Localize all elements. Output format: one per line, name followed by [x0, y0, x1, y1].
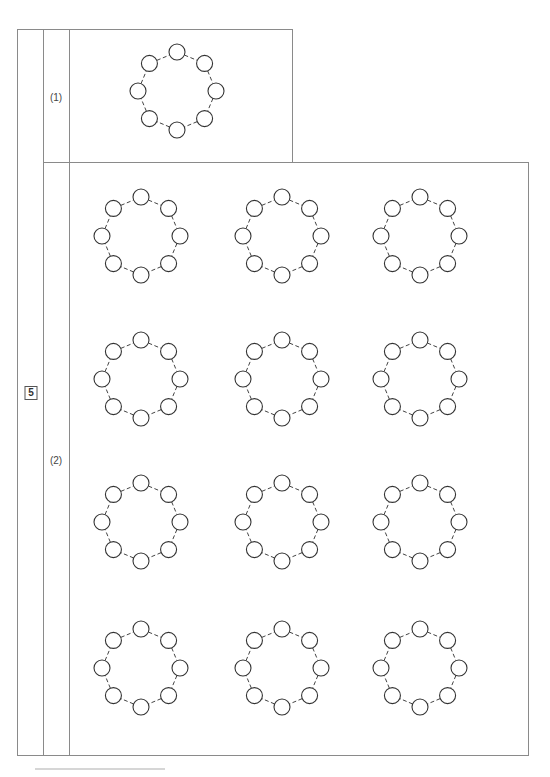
ring-node-circle[interactable] [302, 399, 318, 415]
ring-node-circle[interactable] [440, 486, 456, 502]
ring-node-circle[interactable] [105, 542, 121, 558]
ring-node-circle[interactable] [440, 200, 456, 216]
ring-node-circle[interactable] [373, 660, 389, 676]
ring-node-circle[interactable] [384, 343, 400, 359]
ring-node-circle[interactable] [313, 228, 329, 244]
ring-node-circle[interactable] [246, 632, 262, 648]
ring-node-circle[interactable] [197, 55, 213, 71]
ring-node-circle[interactable] [313, 660, 329, 676]
ring-node-circle[interactable] [235, 660, 251, 676]
ring-node-circle[interactable] [94, 514, 110, 530]
ring-node-circle[interactable] [246, 542, 262, 558]
ring-node-circle[interactable] [373, 371, 389, 387]
ring-node-circle[interactable] [105, 343, 121, 359]
ring-node-circle[interactable] [246, 343, 262, 359]
ring-node-circle[interactable] [440, 688, 456, 704]
ring-node-circle[interactable] [384, 256, 400, 272]
ring-node-circle[interactable] [133, 621, 149, 637]
ring-node-circle[interactable] [246, 486, 262, 502]
ring-node-circle[interactable] [384, 688, 400, 704]
ring-node-circle[interactable] [105, 688, 121, 704]
ring-node-circle[interactable] [133, 475, 149, 491]
ring-node-circle[interactable] [384, 200, 400, 216]
ring-node-circle[interactable] [172, 660, 188, 676]
ring-node-circle[interactable] [440, 256, 456, 272]
ring-node-circle[interactable] [412, 267, 428, 283]
ring-node-circle[interactable] [412, 189, 428, 205]
ring-node-circle[interactable] [197, 111, 213, 127]
ring-node-circle[interactable] [133, 410, 149, 426]
ring-node-circle[interactable] [412, 410, 428, 426]
ring-node-circle[interactable] [440, 542, 456, 558]
ring-node-circle[interactable] [302, 256, 318, 272]
ring-node-circle[interactable] [161, 256, 177, 272]
ring-node-circle[interactable] [412, 699, 428, 715]
ring-node-circle[interactable] [274, 621, 290, 637]
ring-node-circle[interactable] [105, 200, 121, 216]
ring-node-circle[interactable] [384, 399, 400, 415]
ring-node-circle[interactable] [302, 542, 318, 558]
ring-node-circle[interactable] [313, 514, 329, 530]
ring-node-circle[interactable] [208, 83, 224, 99]
ring-node-circle[interactable] [161, 688, 177, 704]
ring-node-circle[interactable] [274, 475, 290, 491]
ring-node-circle[interactable] [274, 332, 290, 348]
ring-node-circle[interactable] [451, 371, 467, 387]
ring-node-circle[interactable] [412, 621, 428, 637]
ring-node-circle[interactable] [302, 343, 318, 359]
ring-node-circle[interactable] [440, 399, 456, 415]
ring-node-circle[interactable] [451, 660, 467, 676]
ring-node-circle[interactable] [94, 660, 110, 676]
ring-node-circle[interactable] [412, 553, 428, 569]
ring-node-circle[interactable] [141, 55, 157, 71]
ring-node-circle[interactable] [412, 475, 428, 491]
ring-node-circle[interactable] [274, 189, 290, 205]
ring-node-circle[interactable] [274, 699, 290, 715]
ring-node-circle[interactable] [274, 553, 290, 569]
ring-node-circle[interactable] [161, 632, 177, 648]
ring-node-circle[interactable] [105, 632, 121, 648]
ring-node-circle[interactable] [172, 371, 188, 387]
ring-node-circle[interactable] [451, 514, 467, 530]
ring-node-circle[interactable] [246, 688, 262, 704]
ring-node-circle[interactable] [161, 486, 177, 502]
ring-node-circle[interactable] [235, 514, 251, 530]
ring-node-circle[interactable] [246, 256, 262, 272]
ring-node-circle[interactable] [169, 122, 185, 138]
ring-node-circle[interactable] [274, 267, 290, 283]
ring-node-circle[interactable] [235, 371, 251, 387]
ring-node-circle[interactable] [169, 44, 185, 60]
ring-node-circle[interactable] [373, 228, 389, 244]
ring-node-circle[interactable] [105, 399, 121, 415]
ring-node-circle[interactable] [302, 486, 318, 502]
ring-node-circle[interactable] [133, 553, 149, 569]
ring-node-circle[interactable] [133, 332, 149, 348]
ring-node-circle[interactable] [313, 371, 329, 387]
ring-node-circle[interactable] [246, 200, 262, 216]
ring-node-circle[interactable] [412, 332, 428, 348]
ring-node-circle[interactable] [373, 514, 389, 530]
ring-node-circle[interactable] [161, 399, 177, 415]
ring-node-circle[interactable] [172, 514, 188, 530]
ring-node-circle[interactable] [161, 200, 177, 216]
ring-node-circle[interactable] [161, 343, 177, 359]
ring-node-circle[interactable] [440, 343, 456, 359]
ring-node-circle[interactable] [130, 83, 146, 99]
ring-node-circle[interactable] [440, 632, 456, 648]
ring-node-circle[interactable] [141, 111, 157, 127]
ring-node-circle[interactable] [302, 688, 318, 704]
ring-node-circle[interactable] [172, 228, 188, 244]
ring-node-circle[interactable] [384, 632, 400, 648]
ring-node-circle[interactable] [302, 200, 318, 216]
ring-node-circle[interactable] [133, 189, 149, 205]
ring-node-circle[interactable] [246, 399, 262, 415]
ring-node-circle[interactable] [105, 486, 121, 502]
ring-node-circle[interactable] [94, 371, 110, 387]
ring-node-circle[interactable] [105, 256, 121, 272]
ring-node-circle[interactable] [302, 632, 318, 648]
ring-node-circle[interactable] [161, 542, 177, 558]
ring-node-circle[interactable] [235, 228, 251, 244]
ring-node-circle[interactable] [451, 228, 467, 244]
ring-node-circle[interactable] [384, 486, 400, 502]
ring-node-circle[interactable] [133, 699, 149, 715]
